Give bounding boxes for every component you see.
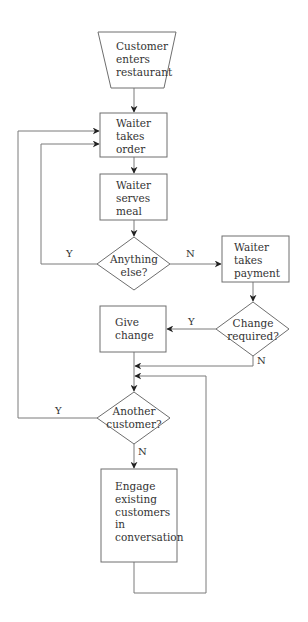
svg-text:serves: serves	[116, 192, 150, 204]
svg-text:Change: Change	[233, 317, 274, 329]
svg-text:Another: Another	[112, 405, 157, 417]
edge-another-customer-yes-loop	[18, 131, 99, 418]
svg-text:existing: existing	[115, 493, 157, 505]
svg-text:Engage: Engage	[115, 480, 155, 492]
node-label-line: customers	[115, 506, 170, 518]
node-label-line: Change	[233, 317, 274, 329]
decision-diamond	[216, 302, 289, 356]
svg-text:Anything: Anything	[109, 253, 158, 265]
node-label-line: in	[115, 518, 125, 530]
node-waiter-takes-order: Waiter takes order	[100, 113, 167, 157]
svg-text:meal: meal	[116, 205, 142, 217]
svg-text:enters: enters	[116, 53, 150, 65]
label-another-customer-no: N	[138, 446, 147, 457]
svg-text:order: order	[116, 143, 146, 155]
node-label-line: Waiter	[116, 179, 152, 191]
node-label-line: else?	[121, 266, 148, 278]
label-change-required-no: N	[257, 355, 266, 366]
node-label-line: change	[115, 329, 154, 341]
svg-text:change: change	[115, 329, 154, 341]
svg-text:customers: customers	[115, 506, 170, 518]
restaurant-flowchart: Customer enters restaurant Waiter takes …	[0, 0, 308, 622]
svg-text:else?: else?	[121, 266, 148, 278]
svg-text:payment: payment	[234, 267, 281, 279]
node-label-line: required?	[227, 330, 279, 342]
svg-text:Waiter: Waiter	[234, 241, 270, 253]
node-waiter-takes-payment: Waiter takes payment	[222, 236, 289, 282]
node-label-line: existing	[115, 493, 157, 505]
node-label-line: conversation	[115, 531, 184, 543]
node-label-line: serves	[116, 192, 150, 204]
node-label-line: Waiter	[234, 241, 270, 253]
label-change-required-yes: Y	[187, 316, 195, 327]
label-another-customer-yes: Y	[54, 405, 62, 416]
node-label-line: Give	[115, 316, 139, 328]
svg-text:Give: Give	[115, 316, 139, 328]
svg-text:required?: required?	[227, 330, 279, 342]
svg-text:customer?: customer?	[106, 418, 162, 430]
node-label-line: Anything	[109, 253, 158, 265]
edge-anything-else-yes-loop	[41, 144, 99, 264]
svg-text:Waiter: Waiter	[116, 117, 152, 129]
node-another-customer: Another customer?	[97, 392, 170, 444]
label-anything-else-no: N	[186, 248, 195, 259]
svg-text:Customer: Customer	[116, 40, 169, 52]
node-change-required: Change required?	[216, 302, 289, 356]
node-label-line: Customer	[116, 40, 169, 52]
node-give-change: Give change	[100, 306, 166, 352]
node-anything-else: Anything else?	[97, 237, 170, 290]
node-label-line: payment	[234, 267, 281, 279]
svg-text:conversation: conversation	[115, 531, 184, 543]
node-label-line: Waiter	[116, 117, 152, 129]
node-engage-customers: Engage existing customers in conversatio…	[101, 469, 184, 562]
node-label-line: takes	[116, 130, 144, 142]
node-label-line: takes	[234, 254, 262, 266]
node-label-line: restaurant	[116, 66, 173, 78]
node-label-line: order	[116, 143, 146, 155]
svg-text:restaurant: restaurant	[116, 66, 173, 78]
node-label-line: meal	[116, 205, 142, 217]
node-label-line: Another	[112, 405, 157, 417]
node-waiter-serves-meal: Waiter serves meal	[100, 174, 167, 220]
svg-text:Waiter: Waiter	[116, 179, 152, 191]
edge-change-required-no	[135, 356, 253, 366]
label-anything-else-yes: Y	[65, 248, 73, 259]
svg-text:takes: takes	[116, 130, 144, 142]
node-customer-enters: Customer enters restaurant	[98, 32, 176, 88]
node-label-line: Engage	[115, 480, 155, 492]
svg-text:takes: takes	[234, 254, 262, 266]
node-label-line: customer?	[106, 418, 162, 430]
node-label-line: enters	[116, 53, 150, 65]
svg-text:in: in	[115, 518, 125, 530]
